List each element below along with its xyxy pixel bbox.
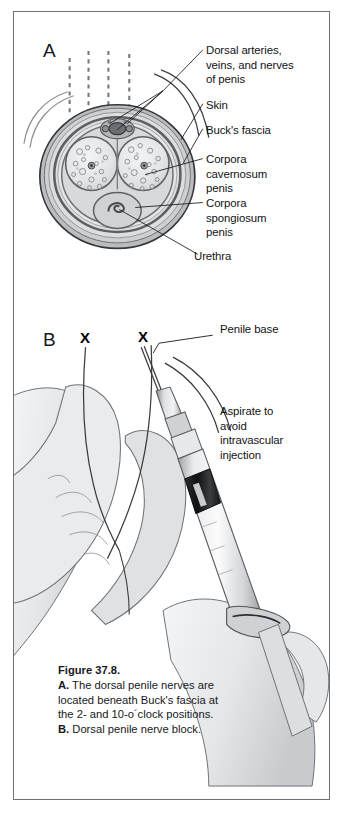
figure-frame: A Dorsal arteries, veins, and nerves of … <box>13 11 330 800</box>
caption-part-b-tag: B. <box>58 723 69 735</box>
injection-site-marker-right: X <box>138 328 148 345</box>
figure-caption: Figure 37.8. A. The dorsal penile nerves… <box>58 663 226 737</box>
caption-part-a: A. The dorsal penile nerves are located … <box>58 678 226 722</box>
label-corpora-cavernosum-penis: Corpora cavernosum penis <box>206 152 326 196</box>
panel-b-letter: B <box>43 329 56 351</box>
caption-part-a-text: The dorsal penile nerves are located ben… <box>58 679 218 721</box>
label-corpora-spongiosum-penis: Corpora spongiosum penis <box>206 196 326 240</box>
caption-title: Figure 37.8. <box>58 663 226 678</box>
panel-a-letter: A <box>43 40 56 62</box>
injection-site-marker-left: X <box>80 329 90 346</box>
label-bucks-fascia: Buck's fascia <box>206 123 271 138</box>
caption-part-a-tag: A. <box>58 679 69 691</box>
label-penile-base: Penile base <box>220 322 278 337</box>
label-dorsal-arteries-veins-nerves: Dorsal arteries, veins, and nerves of pe… <box>206 43 330 87</box>
caption-part-b: B. Dorsal penile nerve block. <box>58 722 226 737</box>
caption-part-b-text: Dorsal penile nerve block. <box>69 723 201 735</box>
label-urethra: Urethra <box>194 249 231 264</box>
figure-root: A Dorsal arteries, veins, and nerves of … <box>0 0 346 826</box>
label-aspirate-note: Aspirate to avoid intravascular injectio… <box>220 404 330 462</box>
label-skin: Skin <box>206 98 228 113</box>
